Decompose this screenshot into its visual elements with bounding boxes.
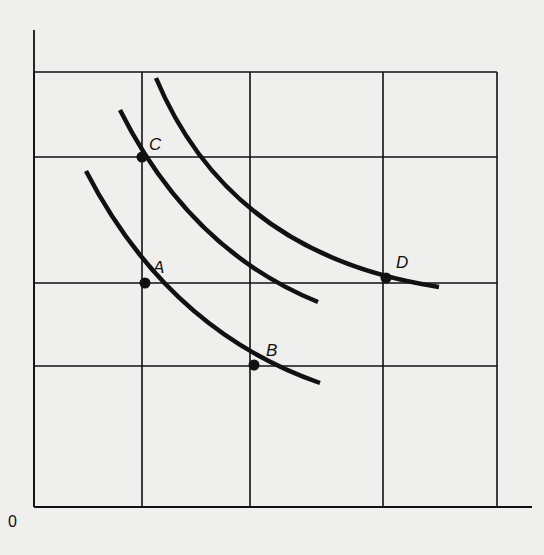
indifference-diagram: CABD 0 (0, 0, 544, 555)
axes (34, 30, 532, 507)
points: CABD (137, 135, 409, 371)
point-label-b: B (266, 341, 277, 360)
grid (34, 72, 497, 507)
point-d (381, 273, 392, 284)
point-label-d: D (396, 253, 408, 272)
origin-label: 0 (8, 513, 17, 530)
point-label-c: C (149, 135, 162, 154)
point-label-a: A (152, 258, 164, 277)
curves (86, 78, 439, 383)
point-c (137, 152, 148, 163)
indifference-curve-1 (86, 171, 320, 383)
point-a (140, 278, 151, 289)
point-b (249, 360, 260, 371)
